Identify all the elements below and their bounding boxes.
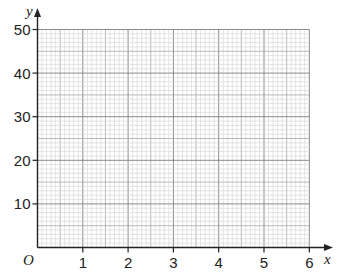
y-tick-label: 10 <box>14 195 31 212</box>
y-axis-label: y <box>24 3 33 19</box>
x-tick-label: 2 <box>124 254 132 271</box>
x-tick-label: 1 <box>79 254 87 271</box>
y-tick-label: 30 <box>14 108 31 125</box>
origin-label: O <box>23 252 34 268</box>
y-axis-arrow-icon <box>34 8 41 17</box>
x-axis-label: x <box>323 251 331 267</box>
y-tick-label: 40 <box>14 65 31 82</box>
x-axis-arrow-icon <box>324 244 333 251</box>
y-tick-label: 50 <box>14 21 31 38</box>
grid <box>38 30 310 248</box>
x-tick-label: 5 <box>260 254 268 271</box>
x-tick-label: 6 <box>305 254 313 271</box>
x-tick-label: 4 <box>215 254 223 271</box>
y-tick-label: 20 <box>14 152 31 169</box>
graph-paper-chart: 1234561020304050 x y O <box>0 0 346 275</box>
x-tick-label: 3 <box>169 254 177 271</box>
